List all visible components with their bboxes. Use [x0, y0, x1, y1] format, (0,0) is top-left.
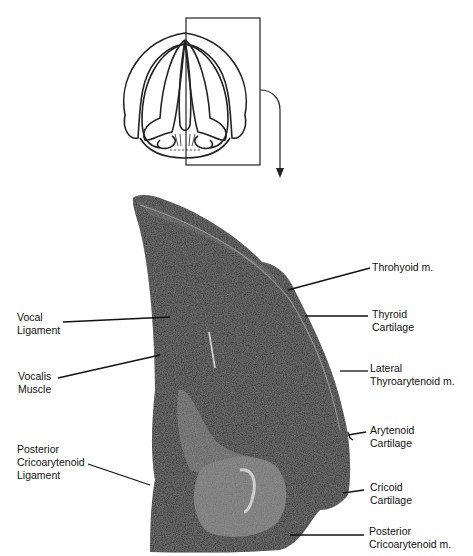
cricoid-ring: [140, 138, 230, 158]
label-posterior-cricoarytenoid-m: Posterior Cricoarytenoid m.: [369, 525, 451, 551]
pointer-arrow-head: [276, 168, 284, 178]
arytenoid-left: [158, 136, 176, 148]
selection-box: [186, 18, 260, 165]
label-posterior-cricoarytenoid-ligament: Posterior Cricoarytenoid Ligament: [17, 443, 85, 482]
label-arytenoid-cartilage: Arytenoid Cartilage: [370, 424, 414, 450]
epiglottis-center: [179, 40, 191, 130]
arytenoid-right: [195, 136, 213, 148]
pointer-arrow-line: [260, 90, 280, 170]
leader-posterior-cricoarytenoid-ligament: [88, 464, 150, 485]
larynx-schematic: [124, 33, 247, 158]
leader-arytenoid: [348, 432, 366, 440]
label-vocalis-muscle: Vocalis Muscle: [18, 370, 51, 396]
label-cricoid-cartilage: Cricoid Cartilage: [370, 481, 412, 507]
label-throhyoid: Throhyoid m.: [372, 261, 433, 274]
label-lateral-thyroarytenoid: Lateral Thyroarytenoid m.: [370, 362, 455, 388]
label-vocal-ligament: Vocal Ligament: [17, 311, 60, 337]
leader-vocalis-muscle: [58, 355, 160, 378]
tissue-section: [133, 195, 350, 552]
cords-lines: [175, 134, 195, 146]
label-thyroid-cartilage: Thyroid Cartilage: [372, 308, 414, 334]
leader-throhyoid: [288, 268, 370, 290]
